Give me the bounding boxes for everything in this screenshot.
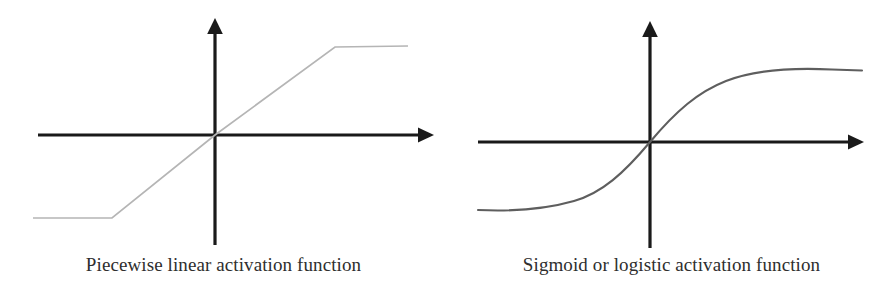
x-axis-arrow-icon	[418, 128, 434, 143]
panel-sigmoid-logistic: Sigmoid or logistic activation function	[448, 0, 895, 297]
x-axis-arrow-icon	[848, 135, 864, 150]
sigmoid-curve	[478, 69, 862, 211]
sigmoid-logistic-plot	[448, 0, 895, 255]
plot-area-piecewise-linear	[0, 0, 447, 255]
piecewise-linear-curve	[33, 46, 408, 218]
y-axis-arrow-icon	[642, 21, 658, 37]
caption-sigmoid-logistic: Sigmoid or logistic activation function	[448, 252, 895, 278]
piecewise-linear-plot	[0, 0, 447, 255]
caption-piecewise-linear: Piecewise linear activation function	[0, 252, 447, 278]
figure-sheet: Piecewise linear activation function Sig…	[0, 0, 895, 297]
plot-area-sigmoid-logistic	[448, 0, 895, 255]
y-axis-arrow-icon	[207, 18, 223, 34]
panel-piecewise-linear: Piecewise linear activation function	[0, 0, 447, 297]
